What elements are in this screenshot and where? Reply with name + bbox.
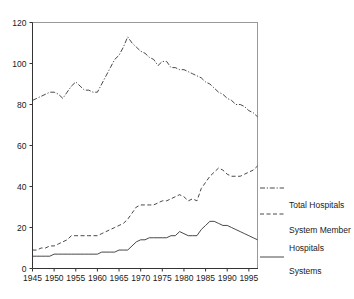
legend-item-hospitals[interactable]: Hospitals	[289, 243, 324, 254]
x-tick-label: 1970	[131, 273, 150, 283]
y-tick-label: 80	[17, 100, 27, 110]
x-axis-ticks: 1945195019551960196519701975198019851990…	[23, 269, 259, 283]
y-tick-label: 120	[12, 18, 26, 28]
x-tick-label: 1995	[239, 273, 258, 283]
x-tick-label: 1945	[23, 273, 42, 283]
x-tick-label: 1955	[66, 273, 85, 283]
y-tick-label: 60	[17, 141, 27, 151]
y-tick-label: 40	[17, 182, 27, 192]
y-axis-ticks: 020406080100120	[12, 18, 32, 274]
legend-item-total-hospitals[interactable]: Total Hospitals	[289, 200, 344, 211]
x-tick-label: 1950	[45, 273, 64, 283]
series-line-systems	[33, 221, 258, 256]
legend-item-systems[interactable]: Systems	[289, 266, 322, 277]
chart-series-lines	[33, 37, 258, 256]
chart-legend: Total Hospitals System Member Hospitals …	[258, 178, 354, 273]
y-tick-label: 20	[17, 223, 27, 233]
x-tick-label: 1990	[218, 273, 237, 283]
y-tick-label: 100	[12, 59, 26, 69]
chart-axes	[33, 22, 259, 269]
legend-item-system-member[interactable]: System Member	[289, 225, 351, 236]
chart-figure: 020406080100120 194519501955196019651970…	[0, 0, 354, 299]
x-tick-label: 1980	[174, 273, 193, 283]
x-tick-label: 1985	[196, 273, 215, 283]
series-line-total-hospitals	[33, 37, 258, 117]
series-line-system-member-hospitals	[33, 166, 258, 250]
x-tick-label: 1965	[110, 273, 129, 283]
x-tick-label: 1960	[88, 273, 107, 283]
x-tick-label: 1975	[153, 273, 172, 283]
